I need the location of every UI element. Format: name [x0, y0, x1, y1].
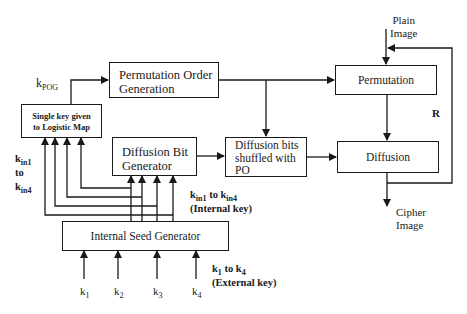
input-k4-label: k4: [192, 284, 202, 298]
single-key-block: Single key given to Logistic Map: [21, 104, 102, 138]
single-key-line2: to Logistic Map: [22, 122, 101, 133]
dbg-line2: Generator: [122, 159, 196, 173]
kin-left-label: kin1 to kin4: [15, 152, 32, 194]
k-pog-label: kPOG: [36, 76, 58, 90]
input-k2-label: k2: [114, 284, 124, 298]
feedback-r-label: R: [432, 106, 440, 120]
internal-seed-label: Internal Seed Generator: [91, 230, 201, 242]
permutation-order-generation-block: Permutation Order Generation: [109, 62, 219, 98]
pog-line2: Generation: [119, 82, 218, 96]
input-k1-label: k1: [80, 284, 90, 298]
diffusion-label: Diffusion: [366, 151, 410, 163]
diffusion-block: Diffusion: [337, 141, 439, 173]
dbs-line3: PO: [235, 164, 306, 177]
diffusion-bit-generator-block: Diffusion Bit Generator: [112, 137, 197, 176]
external-key-label: k1 to k4 (External key): [212, 262, 276, 290]
internal-key-label: kin1 to kin4 (Internal key): [190, 188, 252, 216]
cipher-image-label: Cipher Image: [396, 206, 426, 232]
diffusion-bits-shuffled-block: Diffusion bits shuffled with PO: [225, 137, 307, 177]
permutation-block: Permutation: [335, 65, 437, 95]
input-k3-label: k3: [153, 284, 163, 298]
dbs-line2: shuffled with: [235, 152, 306, 165]
dbg-line1: Diffusion Bit: [122, 145, 196, 159]
single-key-line1: Single key given: [22, 111, 101, 122]
plain-image-label: Plain Image: [390, 14, 417, 40]
pog-line1: Permutation Order: [119, 68, 218, 82]
internal-seed-generator-block: Internal Seed Generator: [62, 221, 229, 251]
permutation-label: Permutation: [358, 74, 414, 86]
dbs-line1: Diffusion bits: [235, 139, 306, 152]
